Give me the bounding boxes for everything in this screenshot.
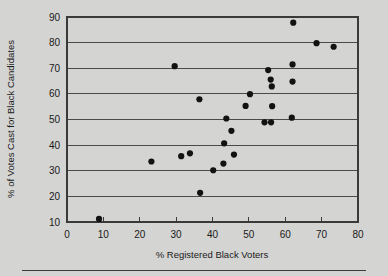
data-point: [243, 103, 249, 109]
data-point: [178, 153, 184, 159]
data-point: [228, 128, 234, 134]
x-tick-label-40: 40: [207, 229, 219, 240]
y-tick-label-20: 20: [49, 191, 61, 202]
data-point: [313, 40, 319, 46]
y-tick-label-10: 10: [49, 217, 61, 228]
data-point: [197, 190, 203, 196]
data-point: [148, 158, 154, 164]
y-tick-label-70: 70: [49, 63, 61, 74]
data-point: [96, 216, 102, 222]
data-point: [289, 61, 295, 67]
y-tick-label-80: 80: [49, 37, 61, 48]
x-tick-label-10: 10: [98, 229, 110, 240]
y-axis-title: % of Votes Cast for Black Candidates: [5, 40, 16, 198]
x-tick-label-20: 20: [134, 229, 146, 240]
data-point: [289, 115, 295, 121]
data-point: [265, 67, 271, 73]
data-point: [269, 103, 275, 109]
data-point: [223, 115, 229, 121]
data-point: [261, 119, 267, 125]
y-axis-tick-labels: 102030405060708090: [49, 12, 61, 228]
chart-figure: 01020304050607080 102030405060708090 % R…: [0, 0, 388, 276]
y-tick-label-40: 40: [49, 140, 61, 151]
data-point: [268, 119, 274, 125]
scatter-plot: 01020304050607080 102030405060708090 % R…: [0, 0, 388, 276]
data-point: [187, 150, 193, 156]
y-tick-label-30: 30: [49, 165, 61, 176]
x-tick-label-80: 80: [352, 229, 364, 240]
x-tick-label-30: 30: [171, 229, 183, 240]
data-point: [172, 63, 178, 69]
data-point: [268, 76, 274, 82]
x-tick-label-70: 70: [316, 229, 328, 240]
data-point: [269, 83, 275, 89]
y-tick-label-50: 50: [49, 114, 61, 125]
y-tick-label-60: 60: [49, 88, 61, 99]
data-point: [289, 78, 295, 84]
x-tick-label-60: 60: [280, 229, 292, 240]
data-point: [210, 167, 216, 173]
x-tick-label-50: 50: [243, 229, 255, 240]
data-point: [331, 44, 337, 50]
x-axis-title: % Registered Black Voters: [156, 249, 269, 260]
x-tick-label-0: 0: [64, 229, 70, 240]
data-point: [221, 140, 227, 146]
data-point: [220, 160, 226, 166]
data-point: [231, 152, 237, 158]
data-point: [290, 20, 296, 26]
y-tick-label-90: 90: [49, 12, 61, 23]
data-point: [247, 91, 253, 97]
data-point: [196, 96, 202, 102]
